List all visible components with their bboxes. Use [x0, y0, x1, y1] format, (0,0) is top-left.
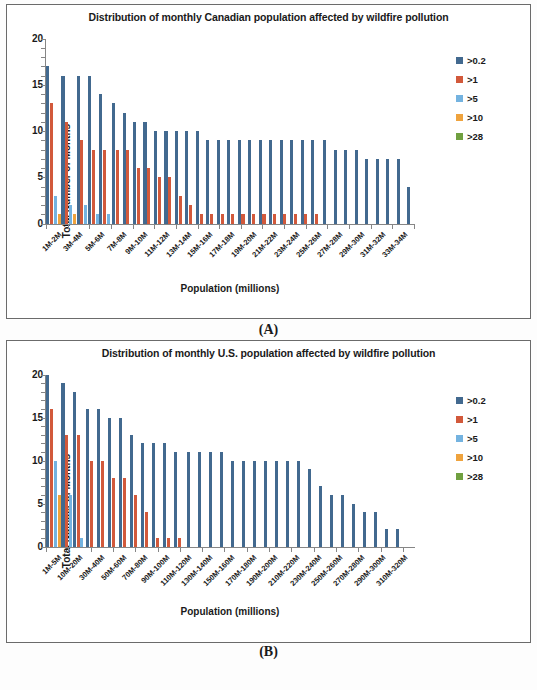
legend-swatch-icon: [456, 133, 463, 140]
bar->0.2: [297, 461, 300, 547]
y-tickmark: [41, 94, 45, 95]
x-tickmark: [358, 548, 359, 552]
bar-group: [381, 375, 392, 547]
chart-b-body: Total Number of Months 05101520 1M-5M10M…: [7, 361, 530, 662]
x-tickmark: [381, 548, 382, 552]
bar->0.2: [344, 150, 347, 224]
x-tickmark: [414, 225, 415, 229]
x-tickmark: [154, 225, 155, 229]
legend-item->28[interactable]: >28: [456, 467, 526, 486]
y-tickmark: [41, 452, 45, 453]
bar->0.2: [164, 131, 167, 224]
legend-item->0.2[interactable]: >0.2: [456, 391, 526, 410]
y-tickmark: [41, 205, 45, 206]
figure-page: Distribution of monthly Canadian populat…: [0, 0, 537, 690]
bar->0.2: [185, 131, 188, 224]
bar-group: [299, 39, 309, 224]
y-tickmark: [41, 409, 45, 410]
bar->0.2: [385, 529, 388, 546]
bar->0.2: [209, 452, 212, 547]
legend-label: >5: [467, 433, 478, 444]
y-tickmark: [41, 48, 45, 49]
bar->5: [69, 205, 72, 224]
chart-b-title: Distribution of monthly U.S. population …: [7, 341, 530, 361]
bar-group: [249, 375, 260, 547]
bar->1: [252, 214, 255, 223]
bar-group: [194, 375, 205, 547]
bar->1: [123, 478, 126, 547]
bar->0.2: [365, 159, 368, 224]
x-tickmark: [89, 225, 90, 229]
chart-a-y-axis: [45, 39, 46, 224]
bar->0.2: [133, 122, 136, 224]
chart-a-x-axis-label: Population (millions): [45, 283, 415, 294]
bar->1: [77, 435, 80, 547]
chart-b-x-tick-labels: 1M-5M10M-20M30M-40M50M-60M70M-80M90M-100…: [46, 552, 414, 598]
bar->0.2: [286, 461, 289, 547]
chart-b-y-tick-labels: 05101520: [23, 375, 43, 547]
bar-group: [282, 375, 293, 547]
bar-group: [152, 39, 162, 224]
bar-group: [271, 375, 282, 547]
bar-group: [172, 375, 183, 547]
bar->1: [126, 150, 129, 224]
bar->1: [178, 538, 181, 547]
bar->0.2: [363, 512, 366, 546]
x-tick-label: 1M-2M: [40, 230, 63, 253]
bar->0.2: [187, 452, 190, 547]
bar-group: [293, 375, 304, 547]
bar->1: [134, 495, 137, 547]
legend-label: >1: [467, 414, 478, 425]
legend-item->10[interactable]: >10: [456, 108, 526, 127]
legend-item->10[interactable]: >10: [456, 448, 526, 467]
legend-swatch-icon: [456, 57, 463, 64]
bar->0.2: [264, 461, 267, 547]
x-tickmark: [46, 548, 47, 552]
legend-item->1[interactable]: >1: [456, 410, 526, 429]
bar-group: [194, 39, 204, 224]
bar-group: [348, 375, 359, 547]
bar->0.2: [355, 150, 358, 224]
bar->0.2: [396, 529, 399, 546]
x-tick-slot: 5M-6M: [89, 229, 111, 275]
y-tickmark: [41, 150, 45, 151]
y-tickmark: [41, 214, 45, 215]
bar-group: [46, 39, 61, 224]
bar->0.2: [73, 392, 76, 547]
legend-item->5[interactable]: >5: [456, 429, 526, 448]
x-tickmark: [158, 548, 159, 552]
bar->0.2: [217, 140, 220, 223]
y-tickmark: [41, 400, 45, 401]
bar->0.2: [152, 443, 155, 546]
chart-b-y-axis: [45, 375, 46, 547]
bar->1: [103, 150, 106, 224]
bar-group: [337, 375, 348, 547]
bar-group: [61, 39, 76, 224]
bar->1: [262, 214, 265, 223]
chart-a-bars: [46, 39, 414, 224]
bar-group: [184, 39, 194, 224]
x-tickmark: [336, 548, 337, 552]
legend-swatch-icon: [456, 397, 463, 404]
bar-group: [163, 39, 173, 224]
bar-group: [227, 375, 238, 547]
y-tickmark: [41, 39, 45, 40]
x-tickmark: [247, 548, 248, 552]
y-tickmark: [41, 461, 45, 462]
chart-a-y-tick-labels: 05101520: [23, 39, 43, 224]
legend-item->28[interactable]: >28: [456, 127, 526, 146]
legend-item->5[interactable]: >5: [456, 89, 526, 108]
chart-panel-b: Distribution of monthly U.S. population …: [6, 340, 531, 643]
chart-a-x-axis: [45, 224, 415, 225]
bar->0.2: [220, 452, 223, 547]
bar->0.2: [206, 140, 209, 223]
bar->0.2: [259, 140, 262, 223]
legend-item->1[interactable]: >1: [456, 70, 526, 89]
chart-b-x-axis-label: Population (millions): [45, 606, 415, 617]
legend-item->0.2[interactable]: >0.2: [456, 51, 526, 70]
bar-group: [84, 375, 95, 547]
bar-group: [309, 39, 319, 224]
y-tickmark: [41, 426, 45, 427]
x-tickmark: [403, 548, 404, 552]
bar->0.2: [290, 140, 293, 223]
